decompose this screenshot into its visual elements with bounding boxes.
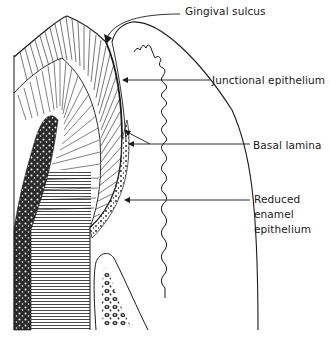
- label-gingival-sulcus: Gingival sulcus: [185, 4, 266, 19]
- gingiva-outline: [112, 22, 258, 330]
- diagram-canvas: Gingival sulcus Junctional epithelium Ba…: [0, 0, 330, 359]
- tooth-gingiva-illustration: [0, 0, 330, 359]
- label-line: Reduced: [254, 192, 324, 207]
- label-line: epithelium: [254, 222, 324, 237]
- junctional-epithelium-rete: [134, 45, 167, 298]
- label-junctional-epithelium: Junctional epithelium: [212, 73, 325, 88]
- label-line: enamel: [254, 207, 324, 222]
- label-basal-lamina: Basal lamina: [253, 138, 322, 153]
- label-reduced-enamel-epithelium: Reduced enamel epithelium: [254, 192, 324, 237]
- leader-lines: [108, 14, 250, 200]
